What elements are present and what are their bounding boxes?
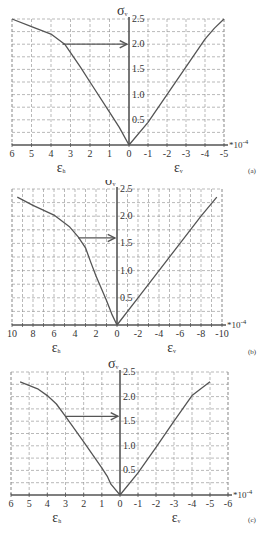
x-tick-label: 2 bbox=[88, 148, 93, 159]
x-axis-label-left: εh bbox=[52, 340, 61, 355]
y-tick-label: 1.0 bbox=[132, 89, 145, 100]
x-tick-label: -3 bbox=[170, 498, 178, 509]
y-tick-label: 1.0 bbox=[123, 440, 136, 451]
x-tick-label: 8 bbox=[31, 328, 36, 339]
x-tick-label: 4 bbox=[45, 498, 50, 509]
x-tick-labels: 1086420-2-4-6-8-10 bbox=[7, 328, 229, 339]
y-axis-label: σv bbox=[108, 360, 119, 371]
x-tick-label: 0 bbox=[118, 498, 123, 509]
x-tick-label: 2 bbox=[81, 498, 86, 509]
x-tick-label: -2 bbox=[152, 498, 160, 509]
x-tick-label: 0 bbox=[115, 328, 120, 339]
x-multiplier-label: *10-4 bbox=[233, 488, 253, 500]
curve-εh bbox=[20, 382, 120, 495]
panel-tag: (c) bbox=[248, 516, 256, 524]
x-tick-label: 1 bbox=[107, 148, 112, 159]
x-tick-label: 10 bbox=[7, 328, 17, 339]
y-tick-label: 2.5 bbox=[120, 183, 133, 194]
y-tick-label: 1.5 bbox=[123, 415, 136, 426]
chart-panel-c: 6543210-1-2-3-4-5-60.51.01.52.02.5σv*10-… bbox=[0, 360, 272, 542]
x-tick-label: -1 bbox=[144, 148, 152, 159]
x-tick-label: 5 bbox=[29, 148, 34, 159]
y-tick-label: 0.5 bbox=[120, 292, 133, 303]
y-tick-label: 0.5 bbox=[132, 114, 145, 125]
y-tick-label: 0.5 bbox=[123, 464, 136, 475]
y-tick-label: 2.0 bbox=[132, 38, 145, 49]
chart-a-svg: 6543210-1-2-3-4-50.51.01.52.02.5σv*10-4ε… bbox=[0, 0, 272, 180]
y-tick-label: 2.0 bbox=[120, 210, 133, 221]
x-tick-labels: 6543210-1-2-3-4-5 bbox=[10, 148, 229, 159]
y-tick-labels: 0.51.01.52.02.5 bbox=[120, 183, 133, 303]
chart-c-svg: 6543210-1-2-3-4-5-60.51.01.52.02.5σv*10-… bbox=[0, 360, 272, 542]
x-tick-label: -5 bbox=[220, 148, 228, 159]
x-axis-label-left: εh bbox=[52, 510, 61, 525]
x-tick-label: -3 bbox=[182, 148, 190, 159]
x-tick-label: 3 bbox=[68, 148, 73, 159]
y-axis-label: σv bbox=[105, 180, 116, 188]
x-tick-label: 1 bbox=[99, 498, 104, 509]
chart-b-svg: 1086420-2-4-6-8-100.51.01.52.02.5σv*10-4… bbox=[0, 180, 272, 360]
x-tick-label: -6 bbox=[176, 328, 184, 339]
chart-panel-a: 6543210-1-2-3-4-50.51.01.52.02.5σv*10-4ε… bbox=[0, 0, 272, 180]
x-tick-label: -8 bbox=[197, 328, 205, 339]
y-tick-label: 1.0 bbox=[120, 265, 133, 276]
x-axis-label-right: εv bbox=[172, 510, 181, 525]
x-multiplier-label: *10-4 bbox=[229, 138, 249, 150]
x-tick-label: 6 bbox=[52, 328, 57, 339]
x-tick-label: 3 bbox=[63, 498, 68, 509]
x-tick-label: -4 bbox=[188, 498, 196, 509]
x-tick-label: -6 bbox=[224, 498, 232, 509]
x-tick-label: 0 bbox=[127, 148, 132, 159]
x-tick-label: 5 bbox=[27, 498, 32, 509]
x-multiplier-label: *10-4 bbox=[227, 318, 247, 330]
panel-tag: (b) bbox=[248, 348, 257, 356]
panel-tag: (a) bbox=[248, 167, 256, 175]
y-tick-labels: 0.51.01.52.02.5 bbox=[132, 13, 145, 125]
x-axis-label-right: εv bbox=[174, 160, 183, 175]
x-tick-label: -2 bbox=[163, 148, 171, 159]
x-tick-label: -4 bbox=[201, 148, 209, 159]
x-tick-label: 6 bbox=[9, 498, 14, 509]
x-tick-label: 4 bbox=[73, 328, 78, 339]
y-tick-label: 2.5 bbox=[132, 13, 145, 24]
x-tick-label: 2 bbox=[94, 328, 99, 339]
chart-panel-b: 1086420-2-4-6-8-100.51.01.52.02.5σv*10-4… bbox=[0, 180, 272, 360]
y-tick-label: 1.5 bbox=[120, 237, 133, 248]
x-axis-label-right: εv bbox=[167, 340, 176, 355]
y-tick-labels: 0.51.01.52.02.5 bbox=[123, 366, 136, 475]
x-tick-label: 4 bbox=[49, 148, 54, 159]
x-tick-label: -5 bbox=[206, 498, 214, 509]
x-tick-label: 6 bbox=[10, 148, 15, 159]
x-tick-label: -1 bbox=[134, 498, 142, 509]
x-tick-label: -2 bbox=[134, 328, 142, 339]
y-tick-label: 2.0 bbox=[123, 391, 136, 402]
y-tick-label: 1.5 bbox=[132, 63, 145, 74]
x-tick-labels: 6543210-1-2-3-4-5-6 bbox=[9, 498, 233, 509]
x-tick-label: -4 bbox=[155, 328, 163, 339]
y-axis-label: σv bbox=[117, 3, 128, 18]
x-axis-label-left: εh bbox=[57, 160, 66, 175]
y-tick-label: 2.5 bbox=[123, 366, 136, 377]
